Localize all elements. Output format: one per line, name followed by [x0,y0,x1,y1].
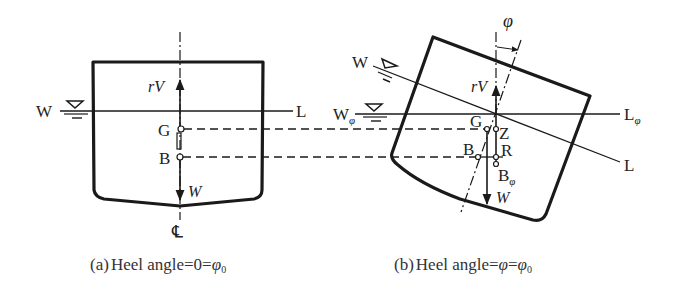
label-rv: rV [471,78,489,95]
label-phi: φ [503,11,513,31]
ship-stability-diagram: W L rV W G B ℄ Wφ Lφ [0,0,678,292]
label-b-phi: Bφ [498,166,515,187]
label-b: B [159,149,170,168]
caption-a: (a)Heel angle=0=φ0 [90,255,226,275]
water-surface-icon [378,59,397,82]
angle-arrow [497,47,518,50]
label-g: G [158,121,170,140]
label-l: L [296,102,306,121]
panel-b-heeled: Wφ Lφ W L φ rV W G Z B [333,11,640,220]
label-w: W [36,102,53,121]
label-l-inclined: L [624,156,634,175]
label-l-phi: Lφ [624,105,640,126]
label-w-phi: Wφ [333,105,355,126]
label-weight: W [188,183,203,200]
point-g [485,127,490,132]
point-z [494,127,499,132]
label-g: G [470,112,482,131]
point-r [494,155,499,160]
hull-upright [93,62,263,206]
label-weight: W [496,189,511,206]
centerline-symbol: ℄ [171,222,183,241]
water-surface-icon [363,104,387,121]
label-rv: rV [148,78,166,95]
point-g [178,126,184,132]
label-b: B [463,140,474,159]
panel-a-upright: W L rV W G B ℄ [36,32,306,241]
label-r: R [501,141,513,160]
label-w-inclined: W [352,53,369,72]
point-b [177,154,183,160]
water-surface-icon [64,101,88,118]
caption-b: (b)Heel angle=φ=φ0 [394,255,532,275]
point-b [476,155,481,160]
